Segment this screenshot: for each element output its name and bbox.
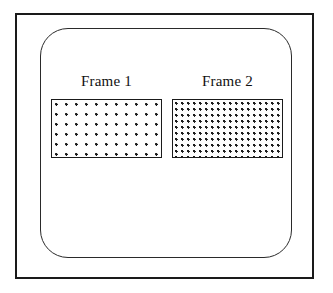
- frame-2-rectangle: [172, 99, 283, 158]
- frame-1-label: Frame 1: [51, 72, 162, 91]
- frame-2-label: Frame 2: [172, 72, 283, 91]
- diagram-canvas: Frame 1 Frame 2: [0, 0, 333, 293]
- frame-1-rectangle: [51, 99, 162, 158]
